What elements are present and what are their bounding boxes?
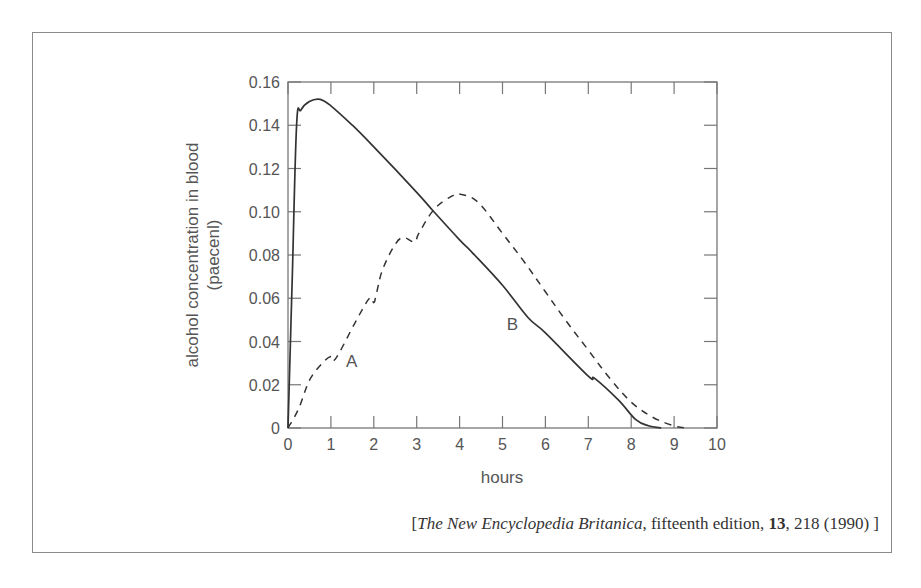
- curve-labels: AB: [346, 315, 518, 371]
- plot-area-border: [288, 82, 717, 428]
- y-tick-label: 0.12: [249, 161, 280, 178]
- x-tick-label: 2: [369, 436, 378, 453]
- x-tick-label: 9: [670, 436, 679, 453]
- alcohol-concentration-chart: 00.020.040.060.080.100.120.140.16 012345…: [0, 0, 921, 588]
- curve-a: [288, 194, 687, 428]
- x-tick-label: 7: [584, 436, 593, 453]
- y-axis-title: alcohol concentration in blood (paecenl): [183, 143, 223, 368]
- curve-label-b: B: [507, 315, 518, 334]
- source-caption: [The New Encyclopedia Britanica, fifteen…: [412, 514, 879, 534]
- y-axis-title-line-2: (paecenl): [204, 220, 223, 291]
- curve-label-a: A: [346, 352, 358, 371]
- x-tick-label: 5: [498, 436, 507, 453]
- plot-curves: [288, 99, 687, 428]
- caption-edition: , fifteenth edition,: [642, 514, 768, 533]
- x-tick-label: 10: [708, 436, 726, 453]
- x-tick-label: 8: [627, 436, 636, 453]
- x-tick-label: 3: [412, 436, 421, 453]
- x-tick-label: 1: [326, 436, 335, 453]
- x-tick-label: 6: [541, 436, 550, 453]
- caption-close-bracket: ]: [873, 514, 879, 533]
- y-tick-label: 0.06: [249, 290, 280, 307]
- caption-page-year: , 218 (1990): [786, 514, 870, 533]
- y-tick-label: 0.02: [249, 377, 280, 394]
- y-tick-label: 0.04: [249, 334, 280, 351]
- x-axis-ticks: 012345678910: [284, 82, 726, 453]
- y-tick-label: 0: [271, 420, 280, 437]
- x-tick-label: 0: [284, 436, 293, 453]
- y-tick-label: 0.10: [249, 204, 280, 221]
- y-tick-label: 0.16: [249, 74, 280, 91]
- x-axis-title: hours: [481, 468, 524, 487]
- plot-axes: [288, 82, 717, 428]
- caption-volume: 13: [769, 514, 786, 533]
- y-tick-label: 0.08: [249, 247, 280, 264]
- y-axis-ticks: 00.020.040.060.080.100.120.140.16: [249, 74, 717, 437]
- curve-b: [288, 99, 661, 428]
- y-axis-title-line-1: alcohol concentration in blood: [183, 143, 202, 368]
- caption-title: The New Encyclopedia Britanica: [417, 514, 642, 533]
- x-tick-label: 4: [455, 436, 464, 453]
- y-tick-label: 0.14: [249, 117, 280, 134]
